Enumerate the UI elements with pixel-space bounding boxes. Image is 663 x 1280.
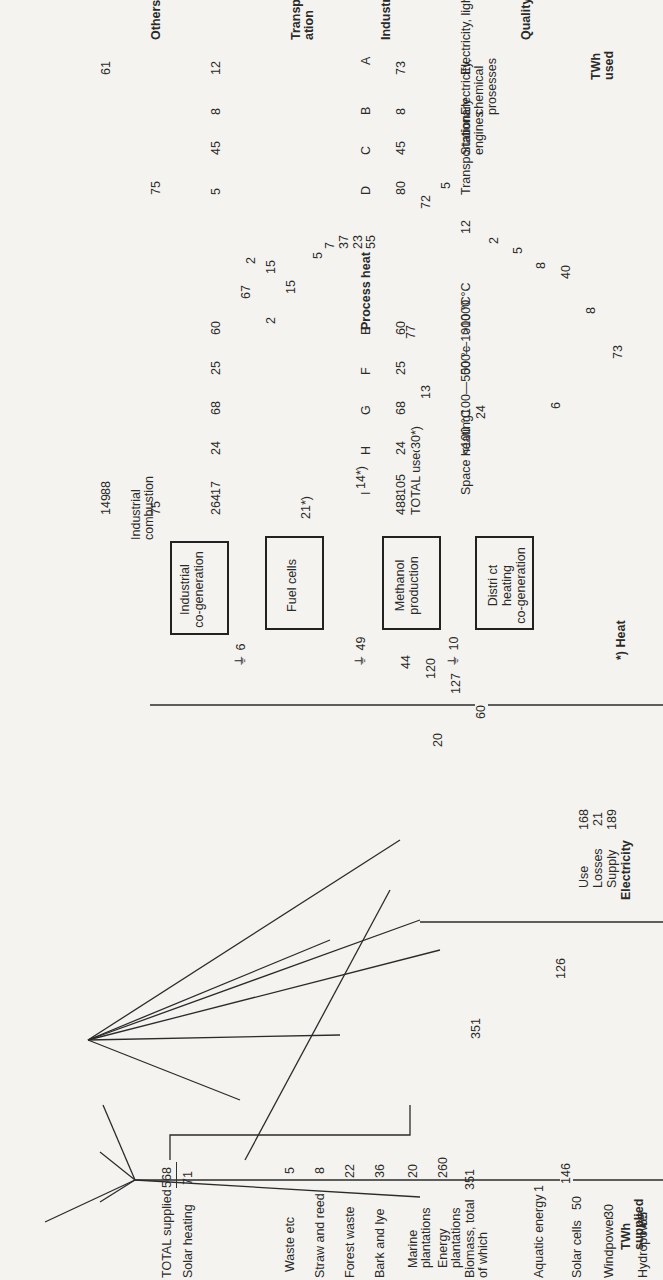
electricity-use: 168: [578, 809, 591, 830]
flow-cogen-to-el: 6: [550, 401, 563, 410]
total-used-value: 488: [395, 494, 408, 515]
flow-el-D: 8: [535, 261, 548, 270]
used-twh-F: 25: [395, 361, 408, 375]
source-biomass: Biomass, total of which: [464, 1188, 490, 1278]
flow-el-C: 40: [560, 264, 573, 280]
flow-bio-44: 44: [400, 654, 413, 670]
used-letter-H: H: [360, 446, 373, 455]
flow-el-I: 12: [460, 219, 473, 235]
flow-bio-120: 120: [425, 657, 438, 680]
used-letter-C: C: [360, 146, 373, 155]
used-twh-C: 45: [395, 141, 408, 155]
transport-D: 75: [150, 181, 163, 195]
loss-industrial-cogen: ⏚ 6: [235, 643, 248, 668]
electric-sum-146: 146: [560, 1162, 573, 1185]
flow-lines: [0, 0, 663, 1280]
used-letter-F: F: [360, 367, 373, 375]
flow-comb-H: 7: [324, 241, 337, 250]
others-header: Others: [150, 0, 163, 40]
source-forest-waste: Forest waste: [344, 1206, 357, 1278]
industry-H: 24: [210, 441, 223, 455]
flow-h-15: 15: [265, 259, 278, 275]
industry-G: 68: [210, 401, 223, 415]
used-letter-D: D: [360, 186, 373, 195]
used-twh-B: 8: [395, 108, 408, 115]
box-fuel-cells-label: Fuel cells: [285, 543, 299, 628]
source-straw-and-reed: Straw and reed: [314, 1193, 327, 1278]
electricity-title: Electricity: [620, 840, 633, 900]
electricity-losses-label: Losses: [592, 848, 605, 888]
industry-I: 17: [210, 481, 223, 495]
others-I: 88: [100, 481, 113, 495]
flow-el-B: 8: [585, 306, 598, 315]
flow-comb-F: 23: [352, 234, 365, 250]
source-marine-plantations: Marine plantations: [407, 1188, 433, 1268]
industry-header: Industry: [380, 0, 393, 40]
industry-total: 264: [210, 494, 223, 515]
flow-meth-77: 77: [405, 324, 418, 340]
biomass-node-351: 351: [470, 1017, 483, 1040]
box-industrial-cogeneration-label: Industrialco-generation: [178, 547, 206, 632]
industry-E: 60: [210, 321, 223, 335]
flow-h-2: 2: [245, 256, 258, 265]
twh-used-header: TWh used: [590, 40, 616, 80]
used-twh-I: 105: [395, 474, 408, 495]
flow-d-72: 72: [420, 194, 433, 210]
value-total-supplied: 568: [161, 1167, 174, 1188]
used-letter-I: I: [360, 492, 373, 495]
value-waste: 5: [284, 1167, 297, 1174]
source-energy-plantations: Energy plantations: [437, 1188, 463, 1268]
source-windpower: Windpower: [603, 1215, 616, 1278]
flow-sol-67: 67: [240, 284, 253, 300]
value-hydropower: 65: [637, 1212, 650, 1226]
industry-F: 25: [210, 361, 223, 375]
source-bark-and-lye: Bark and lye: [374, 1209, 387, 1278]
used-twh-D: 80: [395, 181, 408, 195]
flow-meth-heat: 14*): [355, 465, 368, 490]
others-total: 149: [100, 494, 113, 515]
electricity-supply-label: Supply: [606, 850, 619, 888]
value-biomass-total: 351: [464, 1169, 477, 1190]
source-aquatic-energy: Aquatic energy: [533, 1195, 546, 1278]
flow-dh-to-el: 13: [420, 384, 433, 400]
used-quality-I: Space heating: [460, 415, 473, 495]
used-letter-E: E: [360, 327, 373, 335]
flow-bio-127: 127: [450, 672, 463, 695]
flow-el-A: 73: [612, 344, 625, 360]
industry-D: 5: [210, 188, 223, 195]
energy-flow-diagram: Hydropower Windpower Solar cells Aquatic…: [0, 0, 663, 1280]
electricity-use-label: Use: [578, 866, 591, 888]
flow-c-5: 5: [440, 181, 453, 190]
transport-total: 75: [150, 501, 163, 515]
loss-methanol: ⏚ 49: [355, 636, 368, 668]
quality-header: Quality: [520, 0, 533, 40]
value-forest-waste: 22: [344, 1164, 357, 1178]
industry-A: 12: [210, 61, 223, 75]
used-twh-H: 24: [395, 441, 408, 455]
flow-comb-E: 55: [365, 234, 378, 250]
box-district-heating-label: Distri ct heatingco-generation: [486, 543, 528, 628]
used-quality-D: Transportation: [460, 115, 473, 195]
flow-el-F: 2: [488, 236, 501, 245]
value-aquatic: 1: [533, 1185, 546, 1192]
loss-district-heating: ⏚ 10: [448, 636, 461, 668]
used-twh-A: 73: [395, 61, 408, 75]
electricity-supply: 189: [606, 809, 619, 830]
flow-bio-60: 60: [475, 704, 488, 720]
flow-comb-G: 37: [338, 234, 351, 250]
flow-comb-I: 5: [312, 251, 325, 260]
value-solar-cells: 50: [571, 1196, 584, 1210]
value-marine-plantations: 20: [407, 1164, 420, 1178]
total-used-label: TOTAL used: [410, 446, 423, 515]
transport-header: Transport-ation: [290, 0, 316, 40]
flow-x-2: 2: [265, 316, 278, 325]
value-solar-heating: 71: [182, 1171, 195, 1185]
used-quality-G: 100—500 °c: [460, 346, 473, 415]
process-heat-header: Process heat: [360, 252, 373, 330]
value-straw: 8: [314, 1167, 327, 1174]
source-solar-heating: Solar heating: [182, 1204, 195, 1278]
used-letter-G: G: [360, 405, 373, 415]
source-waste: Waste etc: [284, 1217, 297, 1272]
source-solar-cells: Solar cells: [571, 1220, 584, 1278]
electricity-losses: 21: [592, 812, 605, 826]
